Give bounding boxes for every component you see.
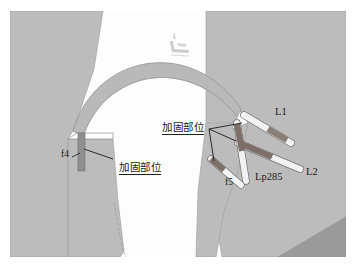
label-Lp285: Lp285 — [255, 171, 282, 182]
annotation-reinforce-upper: 加固部位 — [162, 119, 204, 135]
label-L1: L1 — [275, 106, 287, 117]
figure-canvas: 加固部位 加固部位 L1 L2 Lp285 f4 f5 — [0, 0, 355, 266]
scan-artifact-watermark — [162, 29, 196, 61]
annotation-reinforce-lower: 加固部位 — [119, 159, 161, 175]
label-f5: f5 — [225, 177, 233, 187]
label-L2: L2 — [306, 166, 318, 177]
bar-f4 — [78, 133, 85, 171]
diagram-area: 加固部位 加固部位 L1 L2 Lp285 f4 f5 — [10, 11, 346, 257]
label-f4: f4 — [61, 149, 69, 159]
